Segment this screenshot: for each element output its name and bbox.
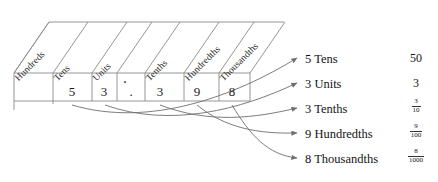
digit-tenths: 3 [150,84,170,100]
fraction-denominator: 1000 [408,156,424,164]
column-header-tenths: Tenths [144,58,169,83]
digit-units: 3 [94,84,114,100]
legend-row: 9 Hundredths [305,125,373,141]
legend-label-hundredths: 9 Hundredths [305,127,373,141]
fraction-numerator: 8 [408,148,424,155]
legend-row: 5 Tens [305,50,338,66]
legend-row: 3 Units [305,75,341,91]
digit-tens: 5 [62,84,82,100]
column-header-hundredths: Hundredths [183,44,222,83]
fraction-numerator: 3 [412,98,421,105]
fraction-tenths: 3 10 [412,98,421,114]
legend-value-tenths: 3 10 [398,98,434,118]
fraction-hundredths: 9 100 [410,123,423,139]
fraction-thousandths: 8 1000 [408,148,424,164]
fraction-denominator: 100 [410,131,423,139]
place-value-diagram: Hundreds Tens Units . Tenths Hundredths … [0,0,438,182]
digit-decimal-point: . [121,84,141,100]
column-header-hundreds: Hundreds [13,49,47,83]
column-header-units: Units [91,61,113,83]
legend-value-tens: 50 [398,50,434,66]
digit-hundredths: 9 [187,84,207,100]
legend-label-tenths: 3 Tenths [305,102,347,116]
digit-thousandths: 8 [222,84,242,100]
legend-label-units: 3 Units [305,77,341,91]
column-header-tens: Tens [52,63,72,83]
legend-value-hundredths: 9 100 [398,123,434,143]
column-header-thousandths: Thousandths [218,41,260,83]
fraction-numerator: 9 [410,123,423,130]
legend-value-thousandths: 8 1000 [398,148,434,168]
legend-label-thousandths: 8 Thousandths [305,152,378,166]
legend-label-tens: 5 Tens [305,52,338,66]
legend-value-units: 3 [398,75,434,91]
fraction-denominator: 10 [412,106,421,114]
legend-row: 8 Thousandths [305,150,378,166]
legend-row: 3 Tenths [305,100,347,116]
